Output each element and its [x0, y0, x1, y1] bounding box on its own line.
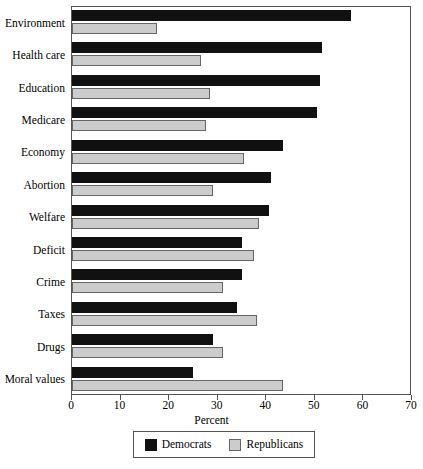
- legend-label-republicans: Republicans: [246, 438, 303, 451]
- bar-republicans: [72, 120, 206, 131]
- bar-republicans: [72, 347, 223, 358]
- x-axis-tick-label: 70: [391, 399, 423, 412]
- category-label: Education: [0, 82, 65, 95]
- bar-chart: EnvironmentHealth careEducationMedicareE…: [0, 0, 423, 469]
- bar-group: Taxes: [72, 299, 410, 331]
- category-label: Taxes: [0, 308, 65, 321]
- bar-democrats: [72, 140, 283, 151]
- bar-republicans: [72, 250, 254, 261]
- plot-area: EnvironmentHealth careEducationMedicareE…: [71, 6, 411, 395]
- bar-democrats: [72, 302, 237, 313]
- x-axis-title: Percent: [0, 414, 423, 427]
- bar-group: Welfare: [72, 202, 410, 234]
- x-axis-tick-label: 10: [100, 399, 140, 412]
- bar-group: Medicare: [72, 104, 410, 136]
- legend-swatch-democrats: [145, 439, 157, 451]
- bar-republicans: [72, 185, 213, 196]
- category-label: Crime: [0, 276, 65, 289]
- bar-group: Abortion: [72, 169, 410, 201]
- bar-republicans: [72, 315, 257, 326]
- plot-inner: EnvironmentHealth careEducationMedicareE…: [72, 7, 410, 394]
- legend-entry-republicans: Republicans: [229, 438, 303, 451]
- bar-republicans: [72, 153, 244, 164]
- category-label: Moral values: [0, 373, 65, 386]
- bar-republicans: [72, 88, 210, 99]
- bar-democrats: [72, 334, 213, 345]
- bar-republicans: [72, 282, 223, 293]
- bar-group: Economy: [72, 137, 410, 169]
- category-label: Economy: [0, 146, 65, 159]
- bar-republicans: [72, 218, 259, 229]
- category-label: Welfare: [0, 211, 65, 224]
- category-label: Deficit: [0, 244, 65, 257]
- bar-republicans: [72, 55, 201, 66]
- bar-group: Education: [72, 72, 410, 104]
- legend-swatch-republicans: [229, 439, 241, 451]
- bar-democrats: [72, 10, 351, 21]
- bar-group: Moral values: [72, 364, 410, 396]
- bar-republicans: [72, 380, 283, 391]
- bar-democrats: [72, 75, 320, 86]
- category-label: Environment: [0, 17, 65, 30]
- bar-democrats: [72, 237, 242, 248]
- x-axis-tick-label: 0: [51, 399, 91, 412]
- x-axis-tick-label: 20: [148, 399, 188, 412]
- category-label: Drugs: [0, 341, 65, 354]
- bar-democrats: [72, 205, 269, 216]
- x-axis-tick-label: 30: [197, 399, 237, 412]
- bar-democrats: [72, 172, 271, 183]
- category-label: Medicare: [0, 114, 65, 127]
- bar-democrats: [72, 42, 322, 53]
- x-axis-tick-label: 50: [294, 399, 334, 412]
- bar-group: Environment: [72, 7, 410, 39]
- bar-democrats: [72, 367, 193, 378]
- legend-label-democrats: Democrats: [162, 438, 212, 451]
- legend-entry-democrats: Democrats: [145, 438, 212, 451]
- bar-republicans: [72, 23, 157, 34]
- bar-democrats: [72, 107, 317, 118]
- bar-democrats: [72, 269, 242, 280]
- legend: Democrats Republicans: [133, 431, 315, 458]
- bar-group: Health care: [72, 39, 410, 71]
- category-label: Abortion: [0, 179, 65, 192]
- bar-group: Deficit: [72, 234, 410, 266]
- bar-group: Drugs: [72, 331, 410, 363]
- category-label: Health care: [0, 49, 65, 62]
- x-axis-tick-label: 60: [342, 399, 382, 412]
- bar-group: Crime: [72, 266, 410, 298]
- x-axis-tick-label: 40: [245, 399, 285, 412]
